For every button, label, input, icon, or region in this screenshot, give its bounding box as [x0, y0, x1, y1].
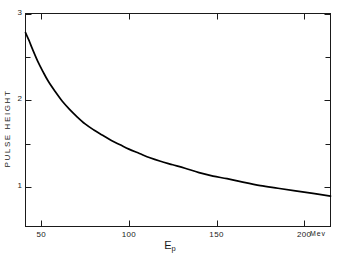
x-axis-unit-label: Mev: [310, 230, 326, 237]
x-tick-label: 150: [202, 230, 232, 239]
x-axis-title: Ep: [140, 239, 200, 251]
x-tick-label: 50: [26, 230, 56, 239]
x-tick-label: 100: [114, 230, 144, 239]
y-tick-label: 3: [13, 8, 22, 17]
y-axis-title: PULSE HEIGHT: [0, 62, 16, 194]
chart-figure: PULSE HEIGHT 123 50100150200 Mev Ep: [0, 0, 341, 261]
y-tick-label: 1: [13, 181, 22, 190]
pulse-height-vs-proton-energy-chart: [0, 0, 341, 261]
x-axis-title-subscript: p: [172, 244, 176, 253]
chart-background: [0, 0, 341, 261]
y-axis-title-text: PULSE HEIGHT: [4, 89, 13, 167]
x-axis-title-main: E: [164, 239, 171, 251]
y-tick-label: 2: [13, 94, 22, 103]
